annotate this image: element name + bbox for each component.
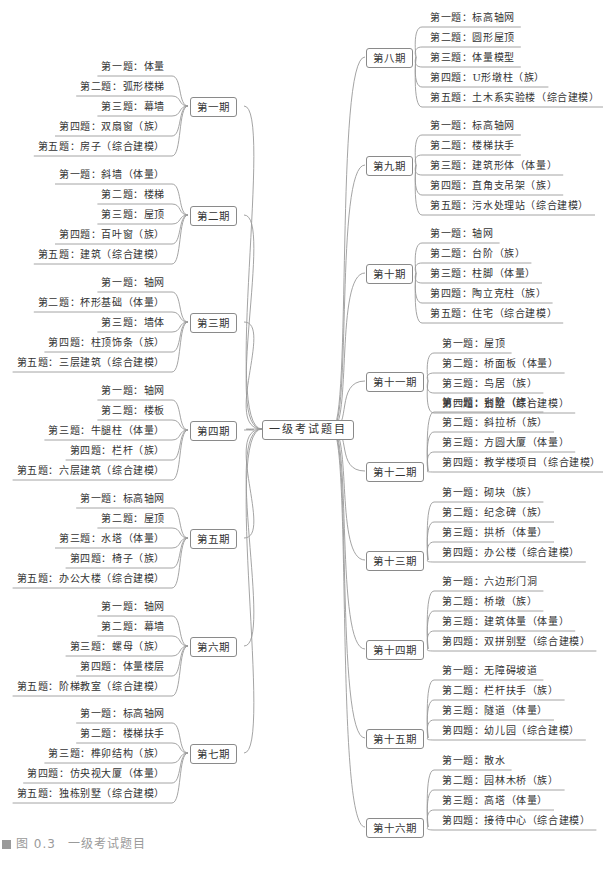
question-item[interactable]: 第一题：散水 [442, 754, 506, 768]
question-item[interactable]: 第四题：U形墩柱（族） [430, 71, 545, 85]
question-item[interactable]: 第四题：教学楼项目（综合建模） [442, 456, 601, 470]
question-item[interactable]: 第二题：圆形屋顶 [430, 31, 515, 45]
question-item[interactable]: 第五题：建筑（综合建模） [38, 248, 165, 262]
question-item[interactable]: 第四题：体量楼层 [80, 660, 165, 674]
question-item[interactable]: 第四题：仿央视大厦（体量） [27, 767, 165, 781]
period-node-right-16[interactable]: 第十六期 [366, 818, 424, 838]
question-item[interactable]: 第五题：房子（综合建模） [38, 140, 165, 154]
question-item[interactable]: 第三题：柱脚（体量） [430, 267, 536, 281]
question-item[interactable]: 第四题：百叶窗（族） [59, 228, 165, 242]
question-item[interactable]: 第四题：办公楼（综合建模） [442, 546, 580, 560]
question-item[interactable]: 第一题：砌块（族） [442, 486, 537, 500]
caption-square-icon [2, 840, 11, 849]
question-item[interactable]: 第四题：双扇窗（族） [59, 120, 165, 134]
question-item[interactable]: 第三题：幕墙 [101, 100, 165, 114]
question-item[interactable]: 第一题：六边形门洞 [442, 575, 537, 589]
question-item[interactable]: 第四题：双拼别墅（综合建模） [442, 635, 590, 649]
question-item[interactable]: 第二题：弧形楼梯 [80, 80, 165, 94]
period-node-left-3[interactable]: 第三期 [190, 313, 237, 333]
question-item[interactable]: 第二题：幕墙 [101, 620, 165, 634]
question-item[interactable]: 第五题：住宅（综合建模） [430, 307, 557, 321]
period-node-right-15[interactable]: 第十五期 [366, 729, 424, 749]
question-item[interactable]: 第一题：轴网 [101, 600, 165, 614]
question-item[interactable]: 第五题：独栋别墅（综合建模） [17, 787, 165, 801]
period-node-right-10[interactable]: 第十期 [366, 264, 413, 284]
period-node-left-6[interactable]: 第六期 [190, 637, 237, 657]
question-item[interactable]: 第三题：体量模型 [430, 51, 515, 65]
question-item[interactable]: 第五题：办公大楼（综合建模） [17, 572, 165, 586]
question-item[interactable]: 第二题：台阶（族） [430, 247, 525, 261]
question-item[interactable]: 第二题：桥面板（体量） [442, 357, 559, 371]
question-item[interactable]: 第三题：高塔（体量） [442, 794, 548, 808]
question-item[interactable]: 第五题：六层建筑（综合建模） [17, 464, 165, 478]
question-item[interactable]: 第一题：标高轴网 [430, 11, 515, 25]
question-item[interactable]: 第五题：阶梯教室（综合建模） [17, 680, 165, 694]
period-node-right-12[interactable]: 第十二期 [366, 462, 424, 482]
question-item[interactable]: 第三题：隧道（体量） [442, 704, 548, 718]
question-item[interactable]: 第一题：轴网 [430, 227, 494, 241]
period-node-left-7[interactable]: 第七期 [190, 744, 237, 764]
question-item[interactable]: 第一题：台阶（族） [442, 396, 537, 410]
question-item[interactable]: 第五题：土木系实验楼（综合建模） [430, 91, 600, 105]
question-item[interactable]: 第一题：斜墙（体量） [59, 168, 165, 182]
question-item[interactable]: 第一题：屋顶 [442, 337, 506, 351]
question-item[interactable]: 第一题：标高轴网 [80, 492, 165, 506]
caption-figure-number: 图 0.3 [16, 837, 56, 851]
period-node-right-14[interactable]: 第十四期 [366, 640, 424, 660]
question-item[interactable]: 第一题：标高轴网 [80, 707, 165, 721]
question-item[interactable]: 第四题：柱顶饰条（族） [48, 336, 165, 350]
question-item[interactable]: 第三题：鸟居（族） [442, 377, 537, 391]
question-item[interactable]: 第二题：屋顶 [101, 512, 165, 526]
period-node-right-8[interactable]: 第八期 [366, 48, 413, 68]
question-item[interactable]: 第四题：接待中心（综合建模） [442, 814, 590, 828]
period-node-left-4[interactable]: 第四期 [190, 421, 237, 441]
period-node-right-9[interactable]: 第九期 [366, 156, 413, 176]
question-item[interactable]: 第二题：楼梯 [101, 188, 165, 202]
question-item[interactable]: 第一题：体量 [101, 60, 165, 74]
period-node-left-1[interactable]: 第一期 [190, 97, 237, 117]
question-item[interactable]: 第一题：轴网 [101, 384, 165, 398]
question-item[interactable]: 第三题：屋顶 [101, 208, 165, 222]
question-item[interactable]: 第三题：拱桥（体量） [442, 526, 548, 540]
question-item[interactable]: 第二题：楼梯扶手 [430, 139, 515, 153]
question-item[interactable]: 第四题：栏杆（族） [70, 444, 165, 458]
question-item[interactable]: 第五题：污水处理站（综合建模） [430, 199, 589, 213]
question-item[interactable]: 第三题：螺母（族） [70, 640, 165, 654]
question-item[interactable]: 第二题：桥墩（族） [442, 595, 537, 609]
question-item[interactable]: 第二题：栏杆扶手（族） [442, 684, 559, 698]
question-item[interactable]: 第一题：轴网 [101, 276, 165, 290]
mind-map-canvas: 一级考试题目 第一期第一题：体量第二题：弧形楼梯第三题：幕墙第四题：双扇窗（族）… [0, 0, 603, 870]
question-item[interactable]: 第二题：斜拉桥（族） [442, 416, 548, 430]
question-item[interactable]: 第三题：水塔（体量） [59, 532, 165, 546]
question-item[interactable]: 第二题：杯形基础（体量） [38, 296, 165, 310]
question-item[interactable]: 第二题：楼板 [101, 404, 165, 418]
caption-title: 一级考试题目 [68, 837, 146, 851]
question-item[interactable]: 第二题：纪念碑（族） [442, 506, 548, 520]
question-item[interactable]: 第三题：榫卯结构（族） [48, 747, 165, 761]
question-item[interactable]: 第三题：牛腿柱（体量） [48, 424, 165, 438]
question-item[interactable]: 第二题：楼梯扶手 [80, 727, 165, 741]
question-item[interactable]: 第四题：陶立克柱（族） [430, 287, 547, 301]
question-item[interactable]: 第一题：无障碍坡道 [442, 664, 537, 678]
question-item[interactable]: 第二题：园林木桥（族） [442, 774, 559, 788]
period-node-left-2[interactable]: 第二期 [190, 206, 237, 226]
question-item[interactable]: 第三题：方圆大厦（体量） [442, 436, 569, 450]
question-item[interactable]: 第四题：幼儿园（综合建模） [442, 724, 580, 738]
period-node-right-13[interactable]: 第十三期 [366, 551, 424, 571]
question-item[interactable]: 第三题：墙体 [101, 316, 165, 330]
question-item[interactable]: 第三题：建筑体量（体量） [442, 615, 569, 629]
period-node-left-5[interactable]: 第五期 [190, 529, 237, 549]
period-node-right-11[interactable]: 第十一期 [366, 372, 424, 392]
root-node[interactable]: 一级考试题目 [262, 420, 354, 440]
question-item[interactable]: 第五题：三层建筑（综合建模） [17, 356, 165, 370]
question-item[interactable]: 第三题：建筑形体（体量） [430, 159, 557, 173]
figure-caption: 图 0.3一级考试题目 [2, 834, 146, 851]
question-item[interactable]: 第一题：标高轴网 [430, 119, 515, 133]
question-item[interactable]: 第四题：椅子（族） [70, 552, 165, 566]
question-item[interactable]: 第四题：直角支吊架（族） [430, 179, 557, 193]
